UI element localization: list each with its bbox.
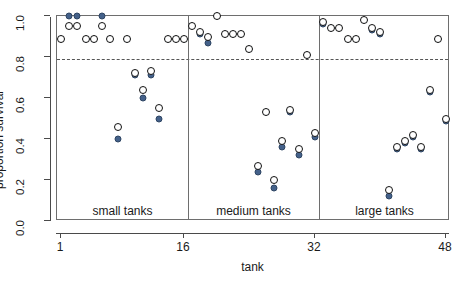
y-tick-mark <box>44 138 50 139</box>
x-tick-label: 1 <box>40 240 80 254</box>
scatter-plot-figure: proportion survival 0.00.20.40.60.81.0 1… <box>0 0 471 282</box>
y-tick-label-text: 0.6 <box>14 73 26 113</box>
group-label: medium tanks <box>216 204 291 218</box>
plot-frame: small tanksmedium tankslarge tanks <box>56 15 449 220</box>
y-tick-label-text: 1.0 <box>14 0 26 31</box>
data-point-observed <box>352 35 360 43</box>
y-axis-line <box>50 17 51 221</box>
data-point-observed <box>147 67 155 75</box>
data-point-observed <box>254 162 262 170</box>
data-point-observed <box>90 35 98 43</box>
data-point-observed <box>295 145 303 153</box>
data-point-observed <box>114 123 122 131</box>
data-point-observed <box>286 106 294 114</box>
data-point-observed <box>139 86 147 94</box>
data-point-predicted <box>99 13 106 20</box>
x-tick-label: 32 <box>294 240 334 254</box>
x-tick-mark <box>445 233 446 238</box>
x-tick-label: 16 <box>163 240 203 254</box>
data-point-observed <box>270 176 278 184</box>
x-axis-title: tank <box>56 260 449 274</box>
data-point-predicted <box>66 13 73 20</box>
y-tick-label-text: 0.0 <box>14 196 26 236</box>
data-point-observed <box>311 129 319 137</box>
data-point-observed <box>385 186 393 194</box>
x-tick-mark <box>314 233 315 238</box>
data-point-observed <box>180 35 188 43</box>
data-point-observed <box>65 22 73 30</box>
group-label: small tanks <box>92 204 152 218</box>
data-point-observed <box>245 45 253 53</box>
data-point-predicted <box>139 95 146 102</box>
y-tick-mark <box>44 97 50 98</box>
reference-line <box>57 59 448 60</box>
x-tick-mark <box>183 233 184 238</box>
y-tick-label: 1.0 <box>0 5 40 17</box>
data-point-predicted <box>74 13 81 20</box>
data-point-observed <box>319 18 327 26</box>
data-point-observed <box>229 30 237 38</box>
data-point-observed <box>434 35 442 43</box>
data-point-observed <box>426 86 434 94</box>
data-point-observed <box>221 30 229 38</box>
y-tick-label-text: 0.8 <box>14 32 26 72</box>
data-point-observed <box>409 131 417 139</box>
x-tick-label: 48 <box>425 240 465 254</box>
data-point-observed <box>360 16 368 24</box>
data-point-observed <box>393 143 401 151</box>
data-point-observed <box>73 22 81 30</box>
data-point-observed <box>196 28 204 36</box>
data-point-observed <box>327 24 335 32</box>
group-label: large tanks <box>355 204 414 218</box>
data-point-observed <box>172 35 180 43</box>
x-axis-line <box>56 233 449 234</box>
data-point-observed <box>82 35 90 43</box>
data-point-observed <box>57 35 65 43</box>
y-tick-mark <box>44 15 50 16</box>
y-tick-mark <box>44 179 50 180</box>
data-point-observed <box>368 24 376 32</box>
y-tick-label: 0.0 <box>0 210 40 222</box>
data-point-observed <box>344 35 352 43</box>
data-point-observed <box>262 108 270 116</box>
data-point-observed <box>237 30 245 38</box>
group-divider <box>188 16 189 219</box>
y-tick-mark <box>44 220 50 221</box>
data-point-observed <box>123 35 131 43</box>
y-tick-mark <box>44 56 50 57</box>
y-tick-label: 0.4 <box>0 128 40 140</box>
data-point-predicted <box>270 185 277 192</box>
plot-area: small tanksmedium tankslarge tanks <box>57 16 448 219</box>
data-point-observed <box>188 22 196 30</box>
data-point-observed <box>155 104 163 112</box>
y-tick-label: 0.6 <box>0 87 40 99</box>
data-point-observed <box>417 143 425 151</box>
data-point-observed <box>278 137 286 145</box>
data-point-observed <box>106 35 114 43</box>
x-tick-mark <box>60 233 61 238</box>
data-point-predicted <box>156 115 163 122</box>
data-point-predicted <box>115 136 122 143</box>
data-point-observed <box>376 28 384 36</box>
data-point-observed <box>442 115 450 123</box>
data-point-observed <box>303 51 311 59</box>
group-divider <box>319 16 320 219</box>
data-point-observed <box>131 69 139 77</box>
y-tick-label-text: 0.2 <box>14 155 26 195</box>
data-point-observed <box>204 33 212 41</box>
data-point-observed <box>335 24 343 32</box>
y-tick-label-text: 0.4 <box>14 114 26 154</box>
data-point-observed <box>164 35 172 43</box>
y-tick-label: 0.2 <box>0 169 40 181</box>
data-point-observed <box>98 22 106 30</box>
data-point-observed <box>213 12 221 20</box>
data-point-observed <box>401 137 409 145</box>
y-tick-label: 0.8 <box>0 46 40 58</box>
